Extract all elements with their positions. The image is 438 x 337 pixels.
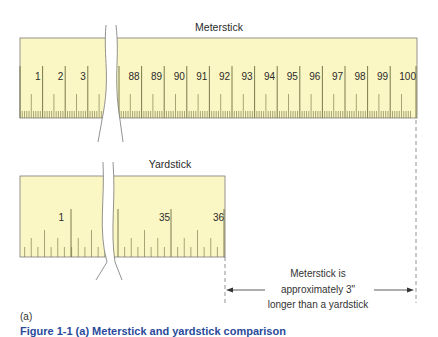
meterstick-label: 3: [80, 71, 86, 82]
meterstick: 1 2 3 88 89 90 91 92 93 94 95 96 97 98 9…: [20, 38, 417, 118]
yardstick-label: 36: [213, 212, 225, 223]
meterstick-label: 1: [35, 71, 41, 82]
yardstick-label: 1: [58, 212, 64, 223]
meterstick-label: 93: [241, 71, 253, 82]
yardstick: 1 35 36: [20, 176, 225, 257]
meterstick-label: 94: [264, 71, 276, 82]
meterstick-label: 89: [151, 71, 163, 82]
meterstick-label: 92: [219, 71, 231, 82]
meterstick-label: 88: [128, 71, 140, 82]
meterstick-label: 98: [354, 71, 366, 82]
ruler-comparison-diagram: Meterstick 1 2 3 88 89 90 91 92 93 94 95…: [0, 0, 438, 337]
meterstick-label: 97: [332, 71, 344, 82]
meterstick-label: 99: [377, 71, 389, 82]
yardstick-title: Yardstick: [149, 158, 192, 170]
meterstick-label: 95: [287, 71, 299, 82]
annotation-line-3: longer than a yardstick: [268, 299, 370, 310]
meterstick-title: Meterstick: [195, 21, 244, 33]
annotation-line-1: Meterstick is: [290, 268, 346, 279]
panel-label: (a): [20, 311, 32, 322]
figure-caption: Figure 1-1 (a) Meterstick and yardstick …: [20, 325, 286, 337]
meterstick-label: 2: [58, 71, 64, 82]
meterstick-label: 100: [399, 71, 416, 82]
meterstick-label: 91: [196, 71, 208, 82]
yardstick-label: 35: [159, 212, 171, 223]
meterstick-label: 96: [309, 71, 321, 82]
meterstick-label: 90: [174, 71, 186, 82]
annotation-line-2: approximately 3": [281, 284, 356, 295]
right-arrow: [374, 288, 414, 293]
left-arrow: [226, 288, 265, 293]
